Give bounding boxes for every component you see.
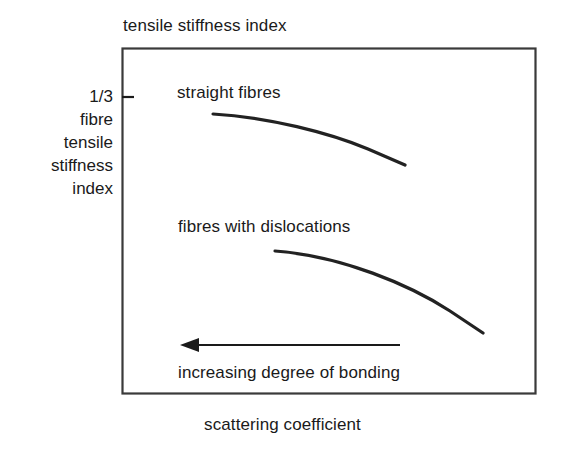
figure-root: tensile stiffness index 1/3 fibre tensil… [0, 0, 565, 453]
plot-frame [123, 49, 536, 394]
arrow-head-icon [180, 338, 199, 352]
plot-area [0, 0, 565, 453]
increasing-bonding-arrow [180, 338, 400, 352]
curve-fibres-with-dislocations [275, 251, 483, 333]
curve-straight-fibres [213, 114, 405, 165]
